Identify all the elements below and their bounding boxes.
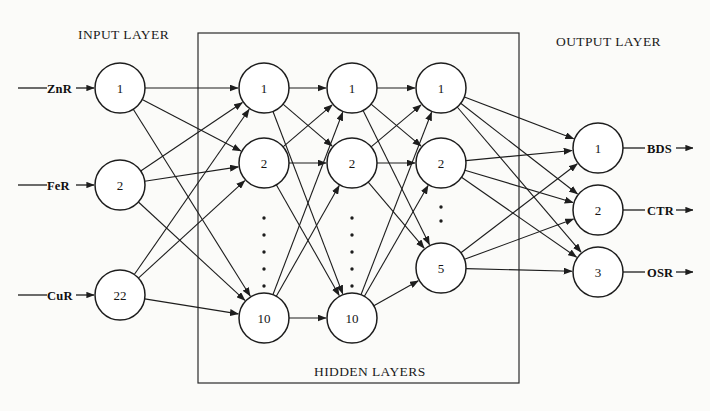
output-signal-label: OSR (647, 266, 674, 280)
ellipsis-dot (350, 233, 353, 236)
input-signal-label: ZnR (47, 82, 73, 96)
neural-network-diagram: INPUT LAYER OUTPUT LAYER HIDDEN LAYERS 1… (0, 0, 710, 411)
ellipsis-dot (262, 216, 265, 219)
node-label: 2 (349, 156, 356, 171)
connection-edge (138, 202, 245, 300)
node-label: 3 (595, 265, 602, 280)
ellipsis-dot (350, 267, 353, 270)
ellipsis-dot (262, 233, 265, 236)
node-label: 22 (114, 288, 127, 303)
connection-edge (368, 182, 424, 248)
output-signal-label: BDS (647, 142, 672, 156)
connection-edge (374, 281, 419, 306)
ellipsis-dot (439, 219, 442, 222)
output-signal-label: CTR (647, 204, 675, 218)
network-canvas: 122212101210125123 ZnRFeRCuRBDSCTROSR (0, 0, 710, 411)
node-label: 1 (349, 81, 356, 96)
ellipsis-dot (262, 250, 265, 253)
node-label: 1 (261, 81, 268, 96)
node-label: 2 (117, 178, 124, 193)
connection-edge (141, 103, 243, 172)
connection-edge (145, 299, 239, 314)
node-label: 10 (258, 311, 271, 326)
network-nodes: 122212101210125123 (95, 63, 623, 343)
node-label: 2 (595, 203, 602, 218)
ellipsis-dot (350, 216, 353, 219)
node-label: 5 (438, 261, 445, 276)
ellipsis-dot (350, 250, 353, 253)
ellipsis-dot (439, 205, 442, 208)
node-label: 1 (438, 81, 445, 96)
connection-edges (133, 88, 581, 318)
connection-edge (138, 181, 244, 279)
node-label: 1 (595, 141, 602, 156)
node-label: 1 (117, 81, 124, 96)
ellipsis-dot (350, 284, 353, 287)
ellipsis-dot (262, 267, 265, 270)
node-label: 10 (346, 311, 359, 326)
input-signal-label: CuR (47, 289, 73, 303)
connection-edge (145, 167, 239, 181)
input-signal-label: FeR (47, 179, 71, 193)
node-label: 2 (261, 156, 268, 171)
ellipsis-dot (262, 284, 265, 287)
node-label: 2 (438, 156, 445, 171)
